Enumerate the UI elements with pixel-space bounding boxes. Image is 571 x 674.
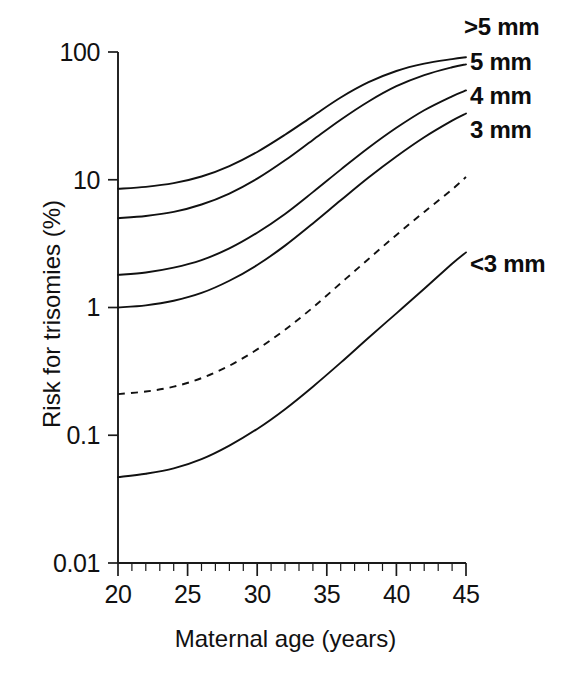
y-axis-title: Risk for trisomies (%) xyxy=(38,184,66,444)
series-label-greater-than-5mm: >5 mm xyxy=(464,13,539,41)
series-label-5mm: 5 mm xyxy=(470,48,532,76)
chart-figure: 100 10 1 0.1 0.01 20 25 30 35 40 45 Risk… xyxy=(0,0,571,674)
x-tick-label-25: 25 xyxy=(148,580,228,609)
x-tick-label-45: 45 xyxy=(426,580,506,609)
series-label-less-than-3mm: <3 mm xyxy=(470,250,545,278)
x-axis-title: Maternal age (years) xyxy=(0,625,571,653)
x-axis-major-ticks xyxy=(118,563,466,576)
curve-3mm xyxy=(118,114,466,308)
series-curves xyxy=(118,57,466,477)
x-axis-minor-ticks xyxy=(132,563,452,571)
x-tick-label-35: 35 xyxy=(287,580,367,609)
series-label-4mm: 4 mm xyxy=(470,82,532,110)
curve-5mm xyxy=(118,64,466,218)
y-tick-label-100: 100 xyxy=(0,38,100,67)
series-label-3mm: 3 mm xyxy=(470,116,532,144)
y-tick-label-0-01: 0.01 xyxy=(0,549,100,578)
x-tick-label-40: 40 xyxy=(356,580,436,609)
curve-greater-than-5mm xyxy=(118,57,466,189)
y-axis-major-ticks xyxy=(108,52,118,563)
x-tick-label-20: 20 xyxy=(78,580,158,609)
x-tick-label-30: 30 xyxy=(217,580,297,609)
curve-less-than-3mm xyxy=(118,252,466,477)
curve-4mm xyxy=(118,90,466,274)
